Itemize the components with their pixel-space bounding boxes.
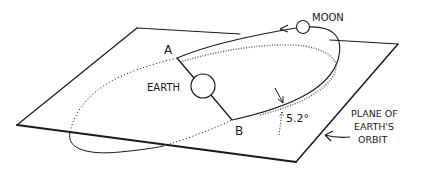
inclination-angle-label: 5.2° [286, 112, 309, 125]
earth-label: EARTH [147, 82, 180, 93]
moon-orbit-diagram: MOON EARTH A B 5.2° PLANE OF EARTH'S ORB… [0, 0, 424, 175]
moon-label: MOON [312, 12, 344, 23]
plane-pointer-arrow-icon [325, 131, 350, 141]
node-a-label: A [164, 43, 173, 57]
orbit-above-plane [177, 27, 340, 120]
inclination-arrow-icon [275, 88, 283, 103]
orbit-hidden-dotted [70, 58, 232, 146]
node-b-label: B [235, 124, 243, 138]
inclination-dotted-arrow-icon [279, 112, 284, 135]
plane-label-line3: ORBIT [358, 134, 387, 145]
plane-label-line2: EARTH'S [354, 121, 394, 132]
plane-label-line1: PLANE OF [351, 108, 398, 119]
earth-icon [191, 74, 215, 98]
moon-icon [297, 21, 310, 34]
